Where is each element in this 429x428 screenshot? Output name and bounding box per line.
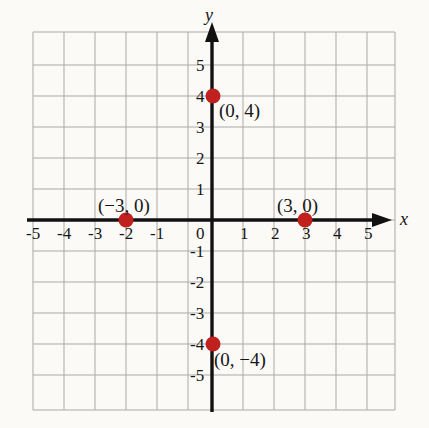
x-tick-label-5: 5 xyxy=(364,225,373,242)
y-tick-label-3: 3 xyxy=(196,119,205,136)
point-label-3-0: (3, 0) xyxy=(277,196,318,215)
y-tick-label-5: 5 xyxy=(196,57,205,74)
x-tick-label-3: 3 xyxy=(302,225,311,242)
y-tick-label--4: -4 xyxy=(190,336,204,353)
x-tick-label--5: -5 xyxy=(26,225,40,242)
x-tick-label--1: -1 xyxy=(150,225,164,242)
x-tick-label--3: -3 xyxy=(88,225,102,242)
origin-tick-label: 0 xyxy=(196,225,205,242)
y-tick-label--1: -1 xyxy=(190,243,204,260)
y-tick-label-4: 4 xyxy=(196,88,205,105)
point-label-0-neg4: (0, −4) xyxy=(214,350,266,369)
y-tick-label--3: -3 xyxy=(190,305,204,322)
x-axis-label: x xyxy=(400,210,408,228)
point-label-0-4: (0, 4) xyxy=(219,101,260,120)
x-tick-label--2: -2 xyxy=(119,225,133,242)
y-tick-label--5: -5 xyxy=(190,367,204,384)
point-label-neg3-0: (−3, 0) xyxy=(98,196,150,215)
y-tick-label-2: 2 xyxy=(196,150,205,167)
x-tick-label-2: 2 xyxy=(271,225,280,242)
y-tick-label--2: -2 xyxy=(190,274,204,291)
coordinate-plane-figure: y x 0 -5 -4 -3 -2 -1 1 2 3 4 5 5 4 3 2 1… xyxy=(0,0,429,428)
y-tick-label-1: 1 xyxy=(196,181,205,198)
y-axis-label: y xyxy=(205,6,213,24)
x-tick-label-1: 1 xyxy=(240,225,249,242)
x-tick-label--4: -4 xyxy=(57,225,71,242)
x-tick-label-4: 4 xyxy=(333,225,342,242)
